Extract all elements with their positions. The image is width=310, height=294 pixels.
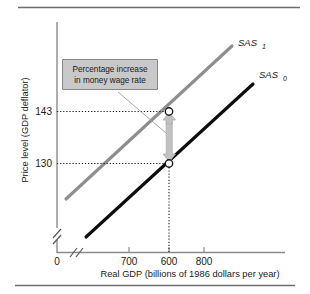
sas1-label: SAS 1: [238, 37, 266, 50]
sas0-label-text: SAS: [259, 69, 279, 80]
sas1-label-text: SAS: [238, 37, 258, 48]
equilibrium-marker-143: [165, 108, 172, 115]
y-tick-label-130: 130: [35, 158, 52, 169]
x-tick-label-700: 700: [121, 256, 138, 267]
x-tick-label-800: 800: [196, 256, 213, 267]
sas0-label: SAS 0: [259, 69, 287, 82]
figure-container: Percentage increase in money wage rate S…: [0, 0, 310, 294]
wage-increase-arrow: [163, 112, 176, 162]
annotation-line-2: in money wage rate: [74, 76, 146, 85]
y-tick-label-143: 143: [35, 106, 52, 117]
x-tick-label-600: 600: [161, 256, 178, 267]
sas0-label-subscript: 0: [283, 75, 287, 82]
annotation-line-1: Percentage increase: [72, 65, 148, 74]
origin-label: 0: [54, 256, 60, 267]
equilibrium-marker-130: [165, 160, 172, 167]
y-axis-title: Price level (GDP deflator): [20, 77, 30, 182]
sas1-label-subscript: 1: [262, 43, 266, 50]
x-axis-title: Real GDP (billions of 1986 dollars per y…: [100, 269, 279, 279]
